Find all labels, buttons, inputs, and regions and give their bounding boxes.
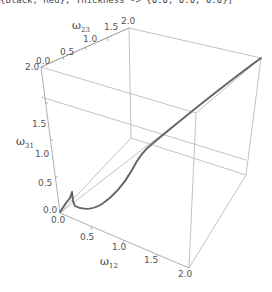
omega12-axis-label: ω12	[100, 255, 118, 270]
omega12-tick-0: 0.0	[51, 215, 66, 225]
axis-omega12: 0.0 0.5 1.0 1.5 2.0 ω12	[51, 213, 193, 279]
omega12-tick-15: 1.5	[144, 255, 158, 265]
omega31-tick-15: 1.5	[32, 119, 46, 129]
omega12-tick-05: 0.5	[80, 232, 94, 242]
omega23-axis-label: ω23	[72, 19, 90, 34]
bounding-box	[41, 28, 261, 268]
omega31-axis-label: ω31	[16, 135, 34, 150]
omega23-tick-1: 1.0	[83, 34, 98, 44]
plot-3d: 0.0 0.5 1.0 1.5 2.0 ω23 2.0 1.5 1.0 0.5 …	[0, 0, 272, 292]
omega31-tick-1: 1.0	[35, 149, 50, 159]
omega23-tick-2: 2.0	[121, 16, 136, 26]
omega12-tick-1: 1.0	[112, 242, 127, 252]
omega23-tick-15: 1.5	[104, 22, 118, 32]
axis-omega31: 2.0 1.5 1.0 0.5 0.0 ω31	[16, 62, 60, 215]
omega23-tick-05: 0.5	[60, 47, 74, 57]
omega31-tick-0: 0.0	[43, 205, 58, 215]
omega31-tick-05: 0.5	[38, 178, 52, 188]
axis-omega23: 0.0 0.5 1.0 1.5 2.0 ω23	[36, 16, 136, 67]
omega12-tick-2: 2.0	[178, 269, 193, 279]
omega31-tick-2: 2.0	[25, 62, 40, 72]
